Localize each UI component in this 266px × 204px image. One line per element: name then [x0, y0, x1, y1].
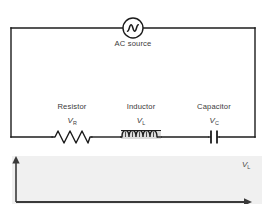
graph-vl-subscript: L: [247, 164, 250, 170]
waveform-graph: [0, 0, 266, 204]
graph-vl-annotation: VL: [242, 161, 250, 169]
figure-canvas: AC source Resistor VR Inductor VL Capaci…: [0, 0, 266, 204]
graph-background: [12, 156, 262, 204]
